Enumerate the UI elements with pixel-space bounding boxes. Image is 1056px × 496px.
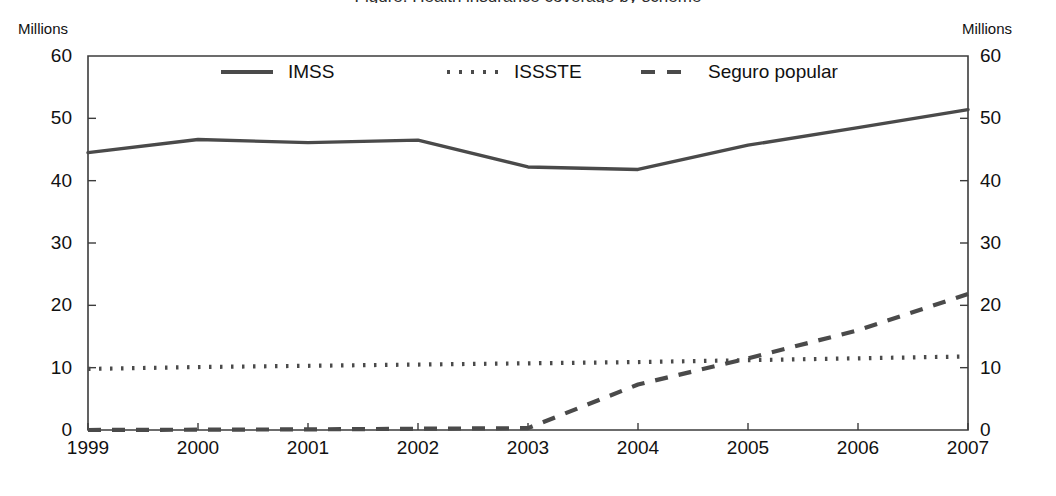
x-axis-tick-2007: 2007	[928, 438, 1008, 457]
y-axis-left-tick-0: 0	[26, 420, 72, 439]
y-axis-right-tick-40: 40	[980, 171, 1026, 190]
legend-swatch-solid-icon	[220, 63, 274, 81]
legend-label-imss: IMSS	[288, 62, 334, 81]
x-axis-tick-2000: 2000	[158, 438, 238, 457]
y-axis-right-tick-60: 60	[980, 46, 1026, 65]
legend-swatch-dashed-icon	[640, 63, 694, 81]
legend-label-seguro-popular: Seguro popular	[708, 62, 838, 81]
y-axis-right-tick-30: 30	[980, 233, 1026, 252]
legend-label-issste: ISSSTE	[514, 62, 582, 81]
x-axis-tick-2001: 2001	[268, 438, 348, 457]
legend-swatch-dotted-icon	[446, 63, 500, 81]
x-axis-tick-2003: 2003	[488, 438, 568, 457]
y-axis-right-tick-10: 10	[980, 358, 1026, 377]
x-axis-tick-1999: 1999	[48, 438, 128, 457]
y-axis-left-tick-30: 30	[26, 233, 72, 252]
y-axis-left-tick-50: 50	[26, 108, 72, 127]
x-axis-tick-2005: 2005	[708, 438, 788, 457]
x-axis-tick-2002: 2002	[378, 438, 458, 457]
y-axis-left-tick-40: 40	[26, 171, 72, 190]
series-line-issste	[88, 356, 968, 368]
y-axis-left-tick-20: 20	[26, 295, 72, 314]
y-axis-right-tick-20: 20	[980, 295, 1026, 314]
legend-entry-issste[interactable]: ISSSTE	[446, 62, 582, 88]
y-axis-left-tick-10: 10	[26, 358, 72, 377]
y-axis-left-tick-60: 60	[26, 46, 72, 65]
legend-entry-imss[interactable]: IMSS	[220, 62, 334, 88]
x-axis-tick-2006: 2006	[818, 438, 898, 457]
y-axis-right-tick-50: 50	[980, 108, 1026, 127]
x-axis-tick-2004: 2004	[598, 438, 678, 457]
chart-figure: Figure: Health insurance coverage by sch…	[0, 0, 1056, 496]
series-line-imss	[88, 110, 968, 170]
chart-legend: IMSS ISSSTE Seguro popular	[220, 62, 860, 88]
legend-entry-seguro-popular[interactable]: Seguro popular	[640, 62, 838, 88]
